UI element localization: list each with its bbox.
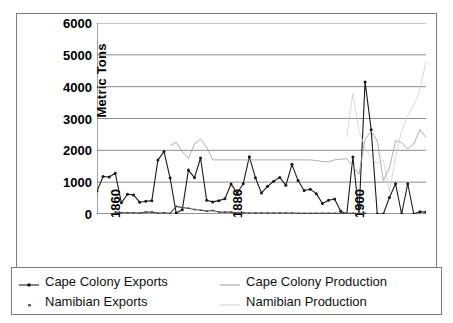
line-with-dot-marker-icon: [18, 276, 40, 287]
legend-label: Cape Colony Exports: [45, 274, 168, 289]
y-tick-label-1000: 1000: [63, 175, 92, 190]
legend-item-cape-colony-production[interactable]: Cape Colony Production: [219, 274, 437, 289]
small-dot-marker-icon: [18, 296, 40, 307]
plot-area: Metric Tons 0100020003000400050006000 18…: [97, 23, 426, 214]
chart-legend: Cape Colony ExportsCape Colony Productio…: [11, 267, 442, 315]
legend-label: Namibian Exports: [45, 294, 148, 309]
chart-screenshot: Metric Tons 0100020003000400050006000 18…: [0, 0, 453, 323]
legend-item-namibian-production[interactable]: Namibian Production: [219, 294, 437, 309]
legend-label: Namibian Production: [246, 294, 367, 309]
chart-frame: Metric Tons 0100020003000400050006000 18…: [16, 13, 437, 302]
y-tick-label-0: 0: [85, 207, 92, 222]
legend-item-namibian-exports[interactable]: Namibian Exports: [18, 294, 219, 309]
plot-canvas: [97, 23, 426, 214]
legend-label: Cape Colony Production: [246, 274, 387, 289]
y-tick-label-6000: 6000: [63, 16, 92, 31]
y-tick-label-5000: 5000: [63, 47, 92, 62]
y-tick-label-4000: 4000: [63, 79, 92, 94]
light-gray-line-icon: [219, 276, 241, 287]
y-tick-label-2000: 2000: [63, 143, 92, 158]
very-light-line-icon: [219, 296, 241, 307]
legend-item-cape-colony-exports[interactable]: Cape Colony Exports: [18, 274, 219, 289]
y-tick-label-3000: 3000: [63, 111, 92, 126]
